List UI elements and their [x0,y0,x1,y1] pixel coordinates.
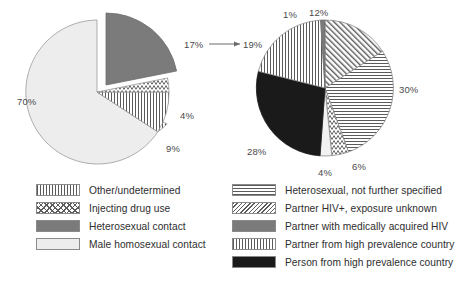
legend-item[interactable]: Partner with medically acquired HIV [232,217,454,235]
legend-swatch-vertical-lines-icon [232,238,276,250]
legend-item-label: Male homosexual contact [89,239,206,250]
legend-swatch-horizontal-lines-icon [232,184,276,196]
right-label-19: 19% [243,39,263,50]
legend-swatch-vertical-lines-icon [36,184,80,196]
legend-item-label: Partner HIV+, exposure unknown [285,203,437,214]
legend-item-label: Heterosexual, not further specified [285,185,442,196]
left-label-4: 4% [180,110,194,121]
right-label-28: 28% [247,146,267,157]
legend-item[interactable]: Male homosexual contact [36,235,206,253]
left-slice-heterosexual[interactable] [106,13,177,85]
right-label-30: 30% [399,84,419,95]
legend-item-label: Partner with medically acquired HIV [285,221,448,232]
legend-swatch-zigzag-icon [36,202,80,214]
legend-left: Other/undetermined Injecting drug use He… [36,181,206,253]
legend-item[interactable]: Heterosexual, not further specified [232,181,454,199]
legend-item-label: Heterosexual contact [89,221,186,232]
right-label-6: 6% [352,161,366,172]
arrow-from-17-to-right-pie [209,42,240,47]
left-label-9: 9% [166,143,180,154]
legend-item[interactable]: Heterosexual contact [36,217,206,235]
legend-item[interactable]: Partner HIV+, exposure unknown [232,199,454,217]
legend-item[interactable]: Other/undetermined [36,181,206,199]
right-label-4: 4% [318,167,332,178]
legend-swatch-solid-black-icon [232,256,276,268]
legend-item-label: Other/undetermined [89,185,181,196]
right-pie-chart: 1% 12% 19% 30% 6% 4% 28% [243,7,419,178]
legend-item[interactable]: Person from high prevalence country [232,253,454,271]
right-label-1: 1% [283,9,297,20]
left-pie-chart: 70% 17% 9% 4% [17,13,204,164]
legend-item-label: Injecting drug use [89,203,170,214]
legend-swatch-diagonal-lines-icon [232,202,276,214]
legend-item[interactable]: Injecting drug use [36,199,206,217]
legend-swatch-solid-light-icon [36,238,80,250]
pie-charts-svg: 70% 17% 9% 4% 1% 1 [0,0,470,181]
legend-swatch-solid-gray-icon [232,220,276,232]
legend-item-label: Partner from high prevalence country [285,239,454,250]
legend-swatch-solid-gray-icon [36,220,80,232]
left-label-70: 70% [17,96,37,107]
left-label-17: 17% [184,39,204,50]
legend-right: Heterosexual, not further specified Part… [232,181,454,271]
legend-item-label: Person from high prevalence country [285,257,453,268]
legend-item[interactable]: Partner from high prevalence country [232,235,454,253]
right-label-12: 12% [309,7,329,18]
figure-canvas: 70% 17% 9% 4% 1% 1 [0,0,470,281]
